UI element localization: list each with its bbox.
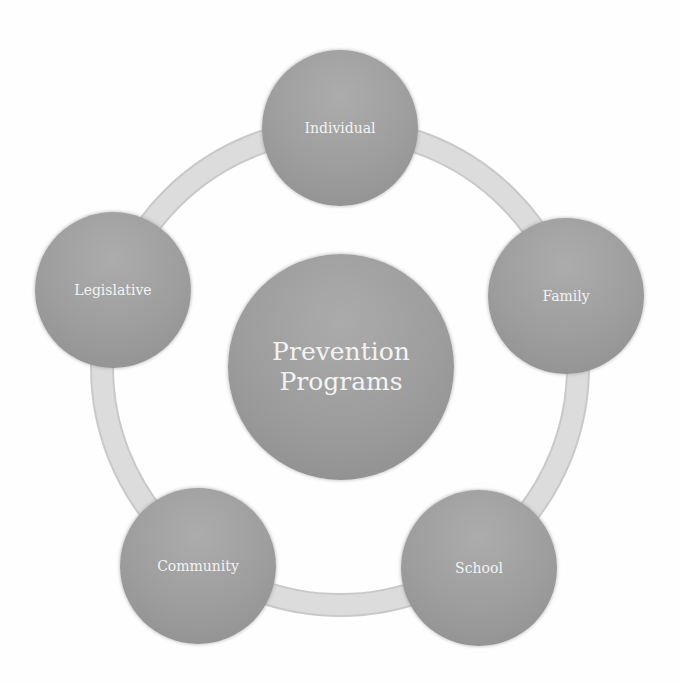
prevention-programs-diagram: Prevention Programs Individual Family Sc… xyxy=(0,0,680,684)
node-label: Legislative xyxy=(74,282,151,298)
center-label-line1: Prevention xyxy=(272,337,410,367)
center-node-prevention-programs: Prevention Programs xyxy=(228,254,454,480)
node-label: Family xyxy=(542,288,589,304)
node-label: School xyxy=(455,560,503,576)
node-legislative: Legislative xyxy=(35,212,191,368)
node-community: Community xyxy=(120,488,276,644)
node-label: Community xyxy=(157,558,239,574)
center-label-line2: Programs xyxy=(272,367,410,397)
node-individual: Individual xyxy=(262,50,418,206)
node-family: Family xyxy=(488,218,644,374)
node-label: Individual xyxy=(304,120,375,136)
node-school: School xyxy=(401,490,557,646)
